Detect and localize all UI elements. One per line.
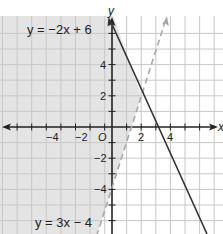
y-tick-label: 4	[100, 59, 106, 71]
x-tick-label: 4	[167, 131, 173, 143]
x-tick-label: −4	[46, 131, 59, 143]
x-tick-label: 2	[138, 131, 144, 143]
x-tick-label: −2	[75, 131, 88, 143]
equation-label-dashed: y = 3x − 4	[35, 215, 92, 230]
y-tick-label: 2	[100, 90, 106, 102]
y-tick-label: −2	[94, 152, 107, 164]
coordinate-plane: y x O −4 −2 2 4 4 2 −2 −4 y = −2x + 6 y …	[0, 0, 223, 234]
y-axis-label: y	[107, 4, 115, 18]
origin-label: O	[98, 131, 107, 143]
x-axis-label: x	[217, 120, 223, 134]
equation-label-solid: y = −2x + 6	[27, 22, 92, 37]
y-tick-label: −4	[94, 183, 107, 195]
